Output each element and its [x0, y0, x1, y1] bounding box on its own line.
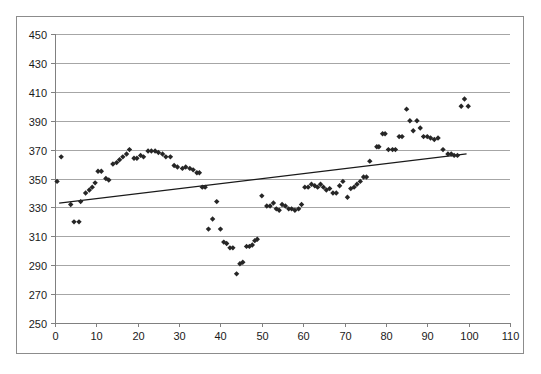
data-point: [458, 104, 463, 109]
data-points-group: [54, 96, 471, 276]
x-tick-label: 70: [339, 330, 351, 342]
data-point: [83, 190, 88, 195]
y-tick-label: 290: [29, 260, 47, 272]
data-point: [367, 158, 372, 163]
x-tick-label: 0: [52, 330, 58, 342]
data-point: [168, 154, 173, 159]
data-point: [99, 169, 104, 174]
data-point: [466, 104, 471, 109]
data-point: [76, 219, 81, 224]
y-tick-label: 250: [29, 318, 47, 330]
data-point: [230, 245, 235, 250]
y-tick-label: 310: [29, 231, 47, 243]
data-point: [71, 219, 76, 224]
data-point: [411, 128, 416, 133]
data-point: [206, 226, 211, 231]
x-tick-label: 90: [421, 330, 433, 342]
data-point: [418, 125, 423, 130]
data-point: [234, 271, 239, 276]
axis-lines-group: [55, 34, 510, 324]
x-tick-label: 80: [380, 330, 392, 342]
x-tick-label: 60: [297, 330, 309, 342]
data-point: [334, 190, 339, 195]
data-point: [210, 216, 215, 221]
y-tick-label: 350: [29, 174, 47, 186]
data-point: [404, 106, 409, 111]
chart-figure: 450430410390370350330310290270250 010203…: [0, 0, 541, 374]
x-tick-label: 30: [173, 330, 185, 342]
y-tick-label: 330: [29, 202, 47, 214]
data-point: [259, 193, 264, 198]
data-point: [218, 226, 223, 231]
y-tick-label: 370: [29, 145, 47, 157]
x-tick-labels-group: 0102030405060708090100110: [52, 330, 519, 342]
data-point: [345, 195, 350, 200]
gridlines-group: [55, 35, 510, 324]
data-point: [414, 118, 419, 123]
data-point: [134, 156, 139, 161]
data-point: [127, 147, 132, 152]
x-tick-label: 100: [460, 330, 478, 342]
data-point: [68, 202, 73, 207]
data-point: [337, 183, 342, 188]
data-point: [124, 151, 129, 156]
data-point: [92, 180, 97, 185]
data-point: [214, 199, 219, 204]
y-tick-label: 410: [29, 87, 47, 99]
y-tick-labels-group: 450430410390370350330310290270250: [29, 29, 47, 330]
x-tick-label: 40: [214, 330, 226, 342]
y-tick-label: 390: [29, 116, 47, 128]
y-tick-label: 430: [29, 58, 47, 70]
y-tick-label: 270: [29, 289, 47, 301]
data-point: [462, 96, 467, 101]
data-point: [407, 118, 412, 123]
x-tick-label: 20: [132, 330, 144, 342]
data-point: [440, 147, 445, 152]
x-tick-label: 110: [502, 330, 520, 342]
scatter-plot: 450430410390370350330310290270250 010203…: [0, 0, 541, 374]
data-point: [399, 134, 404, 139]
data-point: [455, 153, 460, 158]
data-point: [364, 174, 369, 179]
data-point: [393, 147, 398, 152]
x-tick-label: 10: [90, 330, 102, 342]
data-point: [299, 202, 304, 207]
data-point: [59, 154, 64, 159]
y-tick-label: 450: [29, 29, 47, 41]
y-tickmarks-group: [51, 35, 55, 324]
x-tick-label: 50: [256, 330, 268, 342]
